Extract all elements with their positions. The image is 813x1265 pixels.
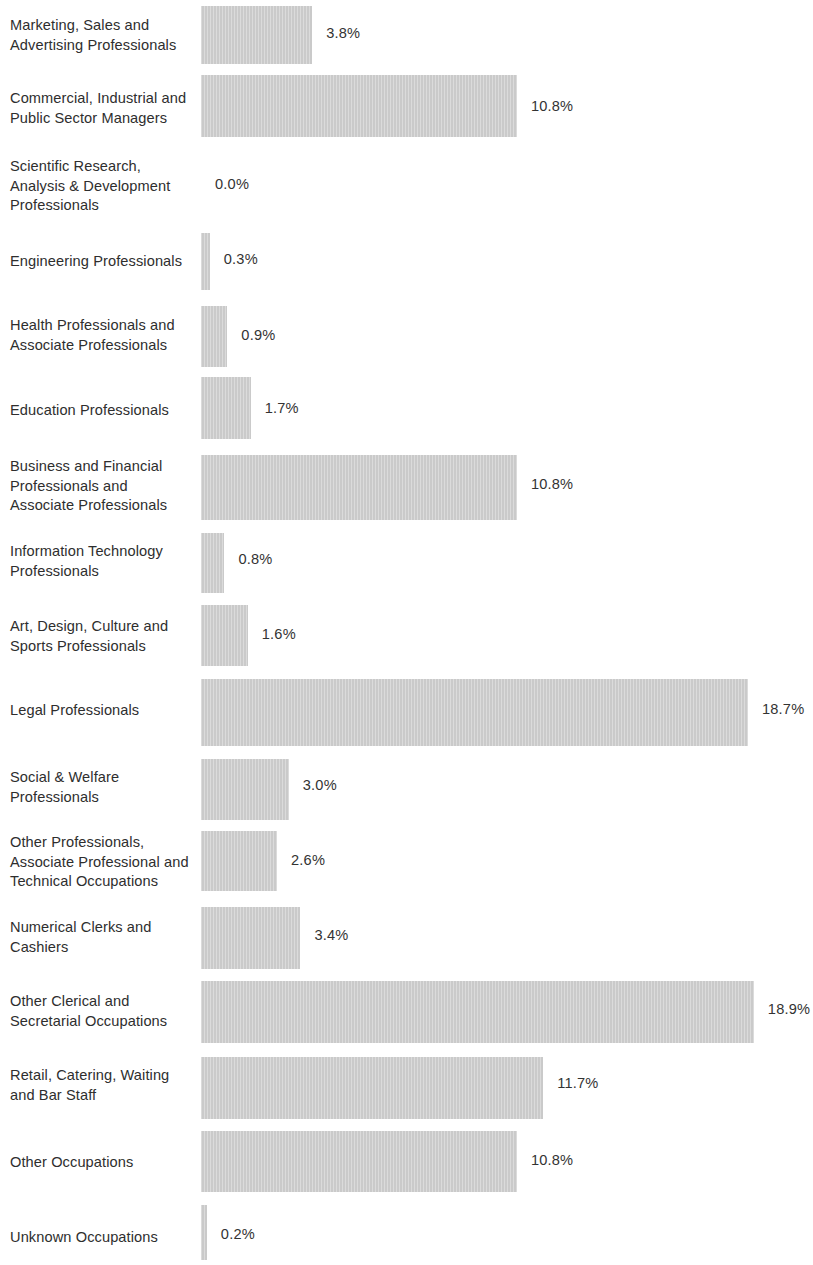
chart-row: Business and Financial Professionals and… [0, 444, 813, 532]
bar [201, 6, 312, 64]
bar-value-label: 0.2% [221, 1226, 255, 1243]
category-label: Business and Financial Professionals and… [10, 457, 195, 516]
category-label: Unknown Occupations [10, 1228, 195, 1248]
category-label: Other Occupations [10, 1153, 195, 1173]
category-label: Health Professionals and Associate Profe… [10, 316, 195, 355]
chart-row: Scientific Research, Analysis & Developm… [0, 150, 813, 232]
category-label: Retail, Catering, Waiting and Bar Staff [10, 1066, 195, 1105]
chart-row: Legal Professionals18.7% [0, 676, 813, 758]
bar [201, 981, 754, 1043]
chart-row: Information Technology Professionals0.8% [0, 532, 813, 602]
bar [201, 1057, 543, 1119]
bar [201, 533, 224, 593]
bar-value-label: 1.6% [262, 626, 296, 643]
bar-value-label: 2.6% [291, 852, 325, 869]
category-label: Art, Design, Culture and Sports Professi… [10, 617, 195, 656]
bar [201, 907, 300, 969]
bar-value-label: 18.9% [768, 1001, 810, 1018]
category-label: Marketing, Sales and Advertising Profess… [10, 16, 195, 55]
category-label: Scientific Research, Analysis & Developm… [10, 157, 195, 216]
chart-row: Health Professionals and Associate Profe… [0, 304, 813, 374]
chart-row: Commercial, Industrial and Public Sector… [0, 70, 813, 148]
category-label: Other Professionals, Associate Professio… [10, 833, 195, 892]
category-label: Education Professionals [10, 401, 195, 421]
chart-row: Retail, Catering, Waiting and Bar Staff1… [0, 1056, 813, 1130]
chart-row: Social & Welfare Professionals3.0% [0, 758, 813, 830]
bar-value-label: 10.8% [531, 1152, 573, 1169]
category-label: Legal Professionals [10, 701, 195, 721]
category-label: Engineering Professionals [10, 252, 195, 272]
chart-row: Other Clerical and Secretarial Occupatio… [0, 980, 813, 1056]
bar [201, 233, 210, 290]
chart-row: Art, Design, Culture and Sports Professi… [0, 602, 813, 676]
category-label: Commercial, Industrial and Public Sector… [10, 89, 195, 128]
bar-value-label: 3.4% [314, 927, 348, 944]
bar-value-label: 3.0% [303, 777, 337, 794]
bar [201, 377, 251, 439]
bar-chart: Marketing, Sales and Advertising Profess… [0, 0, 813, 1265]
category-label: Social & Welfare Professionals [10, 768, 195, 807]
chart-row: Other Professionals, Associate Professio… [0, 830, 813, 906]
category-label: Other Clerical and Secretarial Occupatio… [10, 992, 195, 1031]
bar-value-label: 18.7% [762, 701, 804, 718]
chart-row: Other Occupations10.8% [0, 1130, 813, 1204]
bar [201, 1131, 517, 1192]
bar [201, 759, 289, 820]
chart-row: Numerical Clerks and Cashiers3.4% [0, 906, 813, 980]
bar-value-label: 0.9% [241, 327, 275, 344]
category-label: Numerical Clerks and Cashiers [10, 918, 195, 957]
chart-row: Unknown Occupations0.2% [0, 1204, 813, 1265]
bar [201, 1205, 207, 1260]
bar [201, 605, 248, 666]
bar-value-label: 1.7% [265, 400, 299, 417]
bar [201, 455, 517, 520]
bar-value-label: 11.7% [557, 1075, 598, 1092]
bar [201, 831, 277, 891]
chart-row: Marketing, Sales and Advertising Profess… [0, 0, 813, 70]
bar [201, 679, 748, 746]
chart-row: Education Professionals1.7% [0, 374, 813, 444]
bar-value-label: 0.8% [238, 551, 272, 568]
bar-value-label: 0.3% [224, 251, 258, 268]
bar-value-label: 3.8% [326, 25, 360, 42]
bar [201, 306, 227, 367]
bar-value-label: 0.0% [215, 176, 249, 193]
bar [201, 75, 517, 137]
bar-value-label: 10.8% [531, 476, 573, 493]
chart-row: Engineering Professionals0.3% [0, 232, 813, 304]
category-label: Information Technology Professionals [10, 542, 195, 581]
bar-value-label: 10.8% [531, 98, 573, 115]
